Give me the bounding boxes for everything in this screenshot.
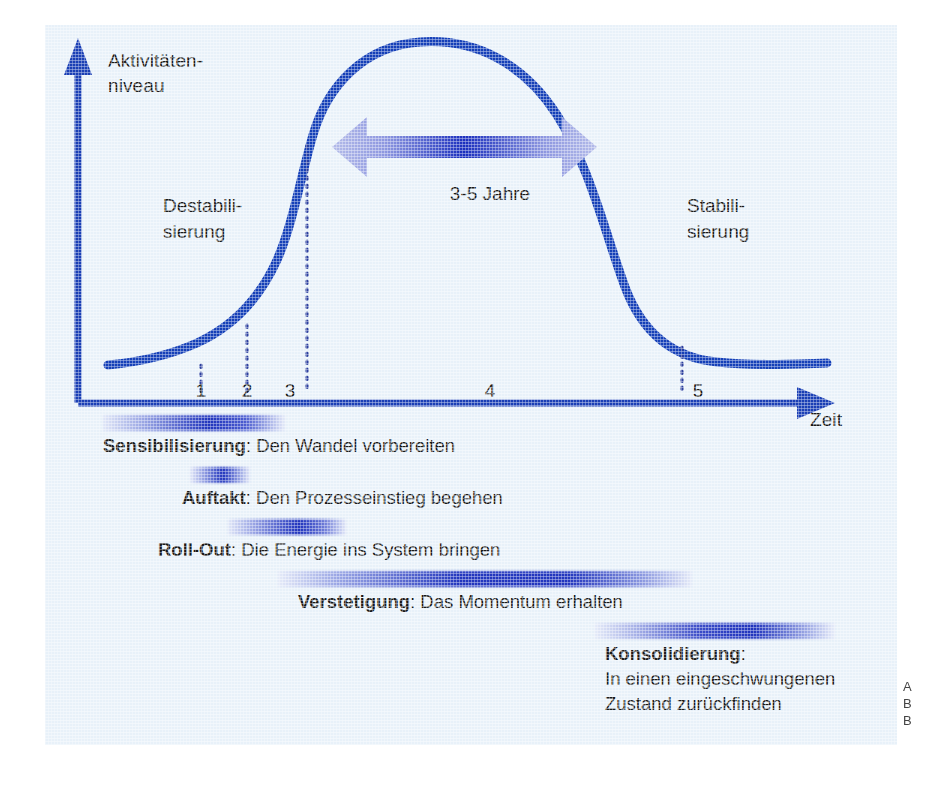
tick-number-4: 4 bbox=[477, 380, 503, 402]
phase-row: Sensibilisierung: Den Wandel vorbereiten bbox=[45, 415, 897, 467]
y-axis bbox=[64, 38, 92, 403]
tick-number-5: 5 bbox=[685, 380, 711, 402]
phase-caption: Roll-Out: Die Energie ins System bringen bbox=[158, 537, 500, 562]
phase-bar bbox=[278, 571, 692, 587]
phase-description: Die Energie ins System bringen bbox=[241, 539, 500, 560]
phase-bar bbox=[595, 623, 835, 639]
phase-description: Das Momentum erhalten bbox=[420, 591, 623, 612]
phase-caption: Konsolidierung: In einen eingeschwungene… bbox=[605, 641, 925, 716]
duration-label: 3-5 Jahre bbox=[400, 183, 580, 205]
phase-description: Den Prozesseinstieg begehen bbox=[256, 487, 503, 508]
phase-colon: : bbox=[741, 643, 746, 664]
tick-number-3: 3 bbox=[277, 380, 303, 402]
phase-bar bbox=[228, 519, 346, 535]
phase-description: In einen eingeschwungenen Zustand zurück… bbox=[605, 668, 835, 714]
duration-arrow bbox=[332, 117, 597, 177]
tick-number-2: 2 bbox=[234, 380, 260, 402]
phase-caption: Verstetigung: Das Momentum erhalten bbox=[298, 589, 623, 614]
phase-colon: : bbox=[410, 591, 420, 612]
phase-name: Konsolidierung bbox=[605, 643, 741, 664]
tick-number-1: 1 bbox=[188, 380, 214, 402]
phase-colon: : bbox=[231, 539, 241, 560]
stabilisierung-annotation: Stabili- sierung bbox=[687, 193, 749, 245]
phase-colon: : bbox=[246, 487, 256, 508]
phase-row: Auftakt: Den Prozesseinstieg begehen bbox=[45, 467, 897, 519]
phase-name: Auftakt bbox=[182, 487, 246, 508]
phase-name: Roll-Out bbox=[158, 539, 231, 560]
phase-bar bbox=[103, 415, 285, 431]
phase-name: Sensibilisierung bbox=[103, 435, 246, 456]
phase-description: Den Wandel vorbereiten bbox=[256, 435, 455, 456]
destabilisierung-annotation: Destabili- sierung bbox=[163, 193, 242, 245]
phase-list: Sensibilisierung: Den Wandel vorbereiten… bbox=[45, 415, 897, 675]
margin-note-fragment: A B B bbox=[903, 678, 937, 729]
figure-canvas: Aktivitäten- niveau Zeit Destabili- sier… bbox=[45, 25, 897, 745]
phase-row: Roll-Out: Die Energie ins System bringen bbox=[45, 519, 897, 571]
phase-caption: Sensibilisierung: Den Wandel vorbereiten bbox=[103, 433, 455, 458]
phase-caption: Auftakt: Den Prozesseinstieg begehen bbox=[182, 485, 503, 510]
phase-bar bbox=[190, 467, 250, 483]
phase-colon: : bbox=[246, 435, 256, 456]
phase-row: Konsolidierung: In einen eingeschwungene… bbox=[45, 623, 897, 675]
y-axis-label: Aktivitäten- niveau bbox=[108, 48, 203, 98]
phase-name: Verstetigung bbox=[298, 591, 410, 612]
phase-row: Verstetigung: Das Momentum erhalten bbox=[45, 571, 897, 623]
